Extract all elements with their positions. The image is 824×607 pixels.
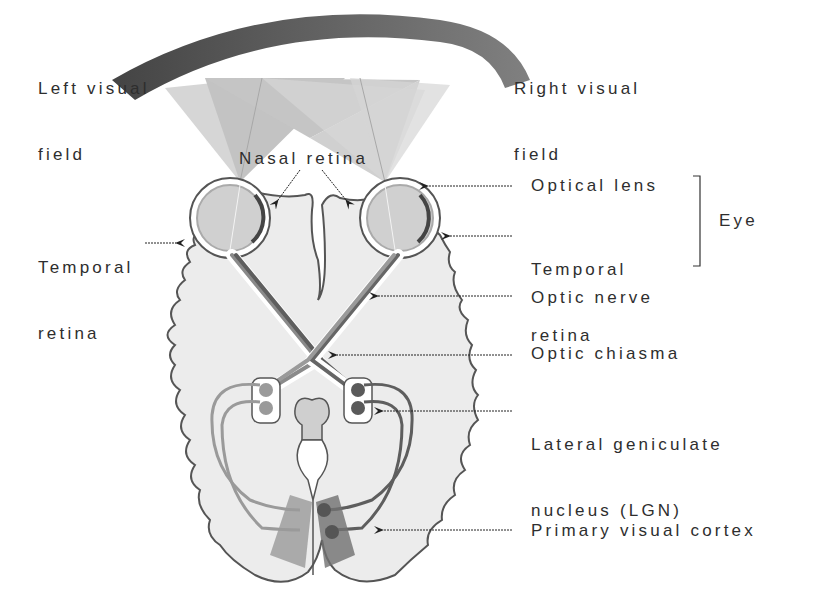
label-optic-nerve: Optic nerve	[531, 287, 653, 309]
right-eye	[360, 178, 440, 258]
left-eye	[190, 178, 270, 258]
label-optic-chiasma: Optic chiasma	[531, 343, 680, 365]
label-right-visual-field: Right visual field	[514, 34, 640, 188]
label-eye: Eye	[719, 210, 758, 232]
label-left-visual-field: Left visual field	[38, 34, 150, 188]
label-primary-visual-cortex: Primary visual cortex	[531, 520, 756, 542]
label-nasal-retina: Nasal retina	[239, 148, 368, 170]
label-optical-lens: Optical lens	[531, 175, 658, 197]
label-temporal-retina-left: Temporal retina	[38, 213, 134, 367]
eye-bracket	[693, 176, 700, 266]
